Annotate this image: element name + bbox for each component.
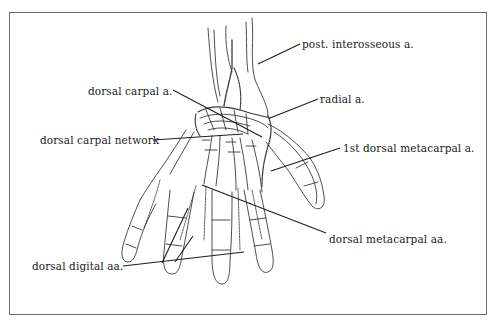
hand-illustration <box>0 0 498 327</box>
middle-finger-outline <box>212 190 232 284</box>
label-post-interosseous: post. interosseous a. <box>302 39 414 50</box>
label-1st-dorsal-metacarpal: 1st dorsal metacarpal a. <box>343 143 475 154</box>
forearm-outline <box>208 28 218 102</box>
label-dorsal-digital-aa: dorsal digital aa. <box>32 261 123 272</box>
leader-dorsal-carpal-network <box>153 134 243 140</box>
diagram-figure: post. interosseous a. dorsal carpal a. r… <box>0 0 498 327</box>
leader-post-interosseous <box>258 44 300 64</box>
label-dorsal-carpal-network: dorsal carpal network <box>40 135 159 146</box>
post-interosseous-artery <box>224 40 232 106</box>
thumb-outline <box>266 124 324 209</box>
label-radial-a: radial a. <box>320 94 365 105</box>
label-dorsal-carpal-a: dorsal carpal a. <box>88 86 172 97</box>
leader-dorsal-digital-aa <box>123 252 244 266</box>
label-dorsal-metacarpal-aa: dorsal metacarpal aa. <box>329 234 447 245</box>
leader-radial-a <box>270 99 318 118</box>
ring-finger-outline <box>163 190 194 274</box>
index-finger-outline <box>244 190 273 272</box>
leader-dorsal-metacarpal-aa <box>202 185 326 233</box>
leader-1st-dorsal-metacarpal <box>271 148 340 171</box>
